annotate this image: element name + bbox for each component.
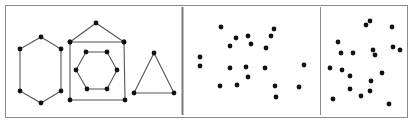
node-dot [85, 87, 90, 92]
node-dot [246, 34, 251, 39]
hexagon-outer-shape [20, 37, 61, 103]
node-dot [368, 89, 373, 94]
node-dot [302, 63, 307, 68]
node-dot [263, 66, 268, 71]
node-dot [74, 68, 79, 73]
node-dot [132, 91, 137, 96]
node-dot [228, 66, 233, 71]
node-dot [59, 47, 64, 52]
node-dot [368, 19, 373, 24]
node-dot [234, 36, 239, 41]
node-dot [272, 27, 277, 32]
node-dot [273, 84, 278, 89]
node-dot [105, 87, 110, 92]
node-dot [152, 51, 157, 56]
node-dot [264, 46, 269, 51]
node-dot [274, 95, 279, 100]
node-dot [68, 40, 73, 45]
node-dot [172, 91, 177, 96]
node-dot [218, 84, 223, 89]
house-roof-shape [70, 23, 124, 42]
node-dot [115, 68, 120, 73]
outer-frame [6, 6, 408, 118]
node-dot [39, 101, 44, 106]
node-dot [369, 79, 374, 84]
node-dot [373, 53, 378, 58]
node-dot [249, 42, 254, 47]
node-dot [380, 71, 385, 76]
node-dot [371, 48, 376, 53]
node-dot [387, 102, 392, 107]
node-dot [198, 64, 203, 69]
graph-panel [18, 21, 177, 106]
node-dot [328, 66, 333, 71]
node-dot [398, 48, 403, 53]
node-dot [348, 87, 353, 92]
node-dot [122, 40, 127, 45]
node-dot [39, 35, 44, 40]
hexagon-inner-shape [76, 52, 117, 89]
scatter-panel-right [328, 19, 403, 107]
node-dot [390, 25, 395, 30]
node-dot [198, 55, 203, 60]
node-dot [269, 34, 274, 39]
node-dot [364, 23, 369, 28]
node-dot [94, 21, 99, 26]
node-dot [348, 74, 353, 79]
node-dot [391, 45, 396, 50]
node-dot [84, 50, 89, 55]
node-dot [18, 89, 23, 94]
node-dot [351, 51, 356, 56]
triangle-shape [134, 53, 174, 93]
node-dot [59, 89, 64, 94]
node-dot [331, 97, 336, 102]
node-dot [123, 98, 128, 103]
node-dot [336, 40, 341, 45]
node-dot [105, 50, 110, 55]
node-dot [18, 47, 23, 52]
node-dot [297, 85, 302, 90]
graph-edges [20, 23, 174, 103]
node-dot [359, 94, 364, 99]
scatter-panel-middle [198, 25, 307, 100]
node-dot [246, 75, 251, 80]
node-dot [235, 83, 240, 88]
panel-separators [183, 7, 321, 115]
node-dot [244, 65, 249, 70]
node-dot [340, 68, 345, 73]
diagram-canvas [0, 0, 414, 122]
node-dot [339, 51, 344, 56]
node-dot [68, 98, 73, 103]
node-dot [219, 25, 224, 30]
node-dot [228, 44, 233, 49]
